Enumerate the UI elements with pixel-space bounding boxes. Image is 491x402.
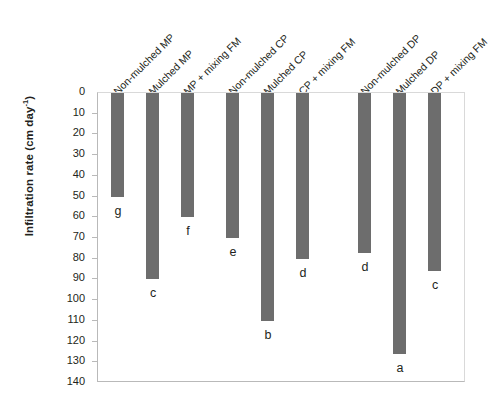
y-axis-tick-label: 120 — [45, 335, 85, 346]
x-axis-category-label: Non-mulched MP — [111, 32, 176, 97]
bar — [393, 93, 406, 354]
significance-letter: e — [223, 246, 243, 259]
y-axis-tick-label: 0 — [45, 86, 85, 97]
bar — [428, 93, 441, 271]
bar — [261, 93, 274, 321]
y-axis-tick-label: 30 — [45, 148, 85, 159]
x-axis-category-label: CP + mixing FM — [296, 36, 356, 96]
significance-letter: g — [108, 205, 128, 218]
y-axis-title-paren: ) — [23, 96, 35, 100]
y-axis-tick-label: 70 — [45, 231, 85, 242]
y-axis-title-exponent: -1 — [21, 100, 30, 107]
bar — [296, 93, 309, 259]
bar — [226, 93, 239, 238]
significance-letter: d — [355, 261, 375, 274]
significance-letter: c — [425, 279, 445, 292]
y-axis-tick-label: 40 — [45, 169, 85, 180]
bar — [358, 93, 371, 253]
y-axis-title-text: Infiltration rate (cm day — [23, 107, 35, 237]
y-axis-tick-label: 140 — [45, 376, 85, 387]
y-axis-tick-label: 90 — [45, 272, 85, 283]
x-axis-category-label: Non-mulched DP — [358, 33, 422, 97]
y-axis-tick-label: 80 — [45, 252, 85, 263]
bar — [181, 93, 194, 217]
significance-letter: a — [390, 362, 410, 375]
significance-letter: c — [143, 287, 163, 300]
x-axis-category-label: DP + mixing FM — [428, 36, 488, 96]
y-axis-tick-label: 10 — [45, 107, 85, 118]
y-axis-tick-label: 20 — [45, 127, 85, 138]
significance-letter: f — [178, 225, 198, 238]
bar — [111, 93, 124, 197]
y-axis-tick-label: 100 — [45, 293, 85, 304]
bar — [146, 93, 159, 279]
y-axis-title: Infiltration rate (cm day-1) — [23, 61, 35, 271]
significance-letter: b — [258, 329, 278, 342]
y-axis-tick-label: 60 — [45, 210, 85, 221]
y-axis-tick-label: 110 — [45, 314, 85, 325]
infiltration-rate-bar-chart: Infiltration rate (cm day-1) 01020304050… — [0, 0, 491, 402]
plot-area: gcfebddac — [97, 92, 465, 382]
y-axis-tick-label: 130 — [45, 355, 85, 366]
significance-letter: d — [293, 267, 313, 280]
y-axis-tick-label: 50 — [45, 190, 85, 201]
